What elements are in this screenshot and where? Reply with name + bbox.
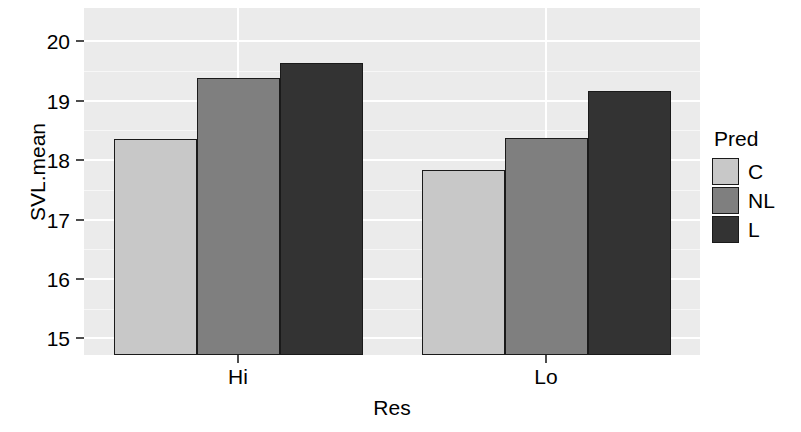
- legend-items: CNLL: [712, 157, 775, 244]
- bar-hi-c: [114, 139, 197, 355]
- y-tick-mark: [76, 159, 84, 161]
- y-axis-tick-labels: 151617181920: [30, 0, 70, 432]
- legend-label-nl: NL: [748, 190, 775, 211]
- legend-swatch-l: [712, 216, 739, 243]
- plot-panel: [84, 8, 700, 355]
- legend-label-l: L: [748, 219, 760, 240]
- y-tick-mark: [76, 278, 84, 280]
- legend-swatch-c: [712, 158, 739, 185]
- y-tick-label: 20: [30, 31, 70, 52]
- x-tick-mark: [545, 355, 547, 363]
- y-tick-mark: [76, 337, 84, 339]
- y-tick-label: 16: [30, 268, 70, 289]
- legend-item-nl[interactable]: NL: [712, 186, 775, 215]
- bar-lo-nl: [505, 138, 588, 355]
- y-tick-label: 17: [30, 209, 70, 230]
- bar-lo-l: [588, 91, 671, 355]
- y-tick-mark: [76, 219, 84, 221]
- y-tick-label: 19: [30, 90, 70, 111]
- legend-label-c: C: [748, 161, 763, 182]
- legend-title: Pred: [712, 128, 775, 149]
- x-axis-title: Res: [84, 396, 700, 420]
- x-tick-label-lo: Lo: [534, 366, 557, 387]
- bar-chart: SVL.mean 151617181920 HiLo Res Pred CNLL: [0, 0, 801, 432]
- y-tick-label: 15: [30, 328, 70, 349]
- legend: Pred CNLL: [712, 128, 775, 244]
- legend-item-l[interactable]: L: [712, 215, 775, 244]
- gridline-major: [84, 40, 700, 42]
- gridline-minor: [84, 71, 700, 72]
- y-tick-label: 18: [30, 150, 70, 171]
- y-tick-mark: [76, 40, 84, 42]
- x-tick-label-hi: Hi: [228, 366, 248, 387]
- bar-lo-c: [422, 170, 505, 355]
- legend-swatch-nl: [712, 187, 739, 214]
- legend-item-c[interactable]: C: [712, 157, 775, 186]
- bar-hi-l: [280, 63, 363, 355]
- y-tick-mark: [76, 100, 84, 102]
- x-tick-mark: [237, 355, 239, 363]
- bar-hi-nl: [197, 78, 280, 355]
